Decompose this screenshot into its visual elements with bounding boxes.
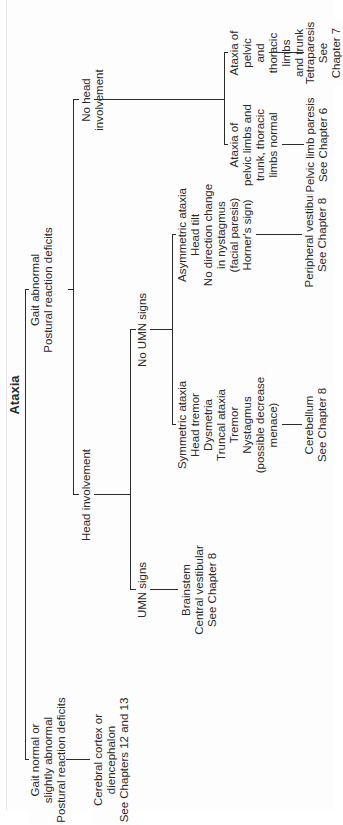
connector-level1 [25,290,26,760]
node-tetraparesis: Tetraparesis See Chapter 7 [304,20,343,87]
node-symmetric-ataxia: Symmetric ataxia Head tremor Dysmetria T… [176,375,280,476]
connector-symmetry [172,235,173,425]
node-gait-normal: Gait normal or slightly abnormal Postura… [29,695,68,824]
connector-brainstem [150,589,178,590]
node-head-involvement: Head involvement [80,447,93,543]
connector-pelvic-paresis [282,144,304,145]
connector-head-down [94,494,130,495]
node-no-umn-signs: No UMN signs [136,291,149,369]
node-peripheral-vestibular: Peripheral vestibular See Chapter 8 [303,181,329,290]
node-cerebral-cortex: Cerebral cortex or diencephalon See Chap… [92,696,131,825]
diagram-title: Ataxia [8,373,21,416]
node-umn-signs: UMN signs [136,560,149,620]
connector-cerebellum [282,424,302,425]
node-brainstem: Brainstem Central vestibular See Chapter… [180,543,219,636]
node-gait-abnormal: Gait abnormal Postural reaction deficits [29,225,55,354]
connector-peripheral [256,234,302,235]
node-cerebellum: Cerebellum See Chapter 8 [303,386,329,464]
connector-level2 [73,100,74,495]
connector-umn [130,330,131,590]
connector-noumn-down [150,329,172,330]
node-pelvic-limb-ataxia: Ataxia of pelvic limbs and trunk, thorac… [228,102,280,188]
page-edge [0,0,7,810]
node-no-head-involvement: No head involvement [80,50,106,150]
connector-head-tick [73,494,79,495]
connector-nohead-tick [73,99,79,100]
node-all-limb-ataxia: Ataxia of pelvic and thoracic limbs and … [228,27,306,80]
node-pelvic-limb-paresis: Pelvic limb paresis See Chapter 6 [304,95,330,194]
connector-tetraparesis [269,52,304,53]
connector-limbs [224,53,225,145]
connector-cortex [66,759,90,760]
connector-nohead-down [94,99,224,100]
node-asymmetric-ataxia: Asymmetric ataxia Head tilt No direction… [176,182,254,288]
